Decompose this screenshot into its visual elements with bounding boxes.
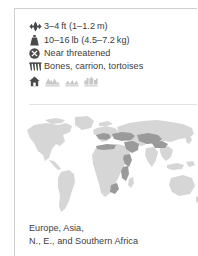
stat-row-conservation-status: Near threatened (29, 47, 197, 60)
map-caption-line-1: Europe, Asia, (29, 222, 197, 235)
map-caption: Europe, Asia, N., E., and Southern Afric… (29, 222, 197, 249)
stat-value-conservation-status: Near threatened (44, 47, 110, 60)
map-caption-line-2: N., E., and Southern Africa (29, 235, 197, 248)
mountains-icon (45, 73, 60, 91)
width-arrows-icon (29, 20, 44, 33)
range-map (23, 113, 197, 218)
cliffs-icon (84, 73, 98, 91)
stat-value-weight: 10–16 lb (4.5–7.2 kg) (44, 34, 130, 47)
stats-list: 3–4 ft (1–1.2 m) 10–16 lb (4.5–7.2 kg) N… (29, 20, 197, 90)
stat-row-length: 3–4 ft (1–1.2 m) (29, 20, 197, 33)
stat-value-diet: Bones, carrion, tortoises (44, 60, 143, 73)
stat-row-diet: Bones, carrion, tortoises (29, 60, 197, 73)
weight-icon (29, 34, 44, 47)
section-divider (29, 104, 197, 105)
stat-row-weight: 10–16 lb (4.5–7.2 kg) (29, 33, 197, 46)
stat-value-length: 3–4 ft (1–1.2 m) (44, 20, 108, 33)
stat-row-habitat (29, 75, 197, 90)
range-map-svg (23, 113, 197, 218)
habitat-icon-group (29, 73, 98, 91)
conservation-status-icon (29, 47, 44, 60)
hills-icon (65, 73, 79, 91)
nest-house-icon (29, 73, 40, 91)
diet-icon (29, 60, 44, 73)
map-landmass (27, 116, 197, 212)
species-facts-card: 3–4 ft (1–1.2 m) 10–16 lb (4.5–7.2 kg) N… (14, 8, 197, 256)
